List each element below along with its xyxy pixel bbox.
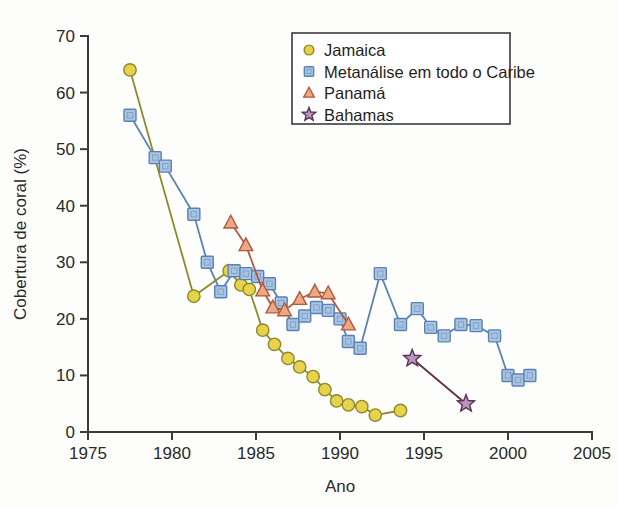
data-point-square [322,304,334,316]
data-point-circle [257,324,269,336]
data-point-circle [293,361,305,373]
data-point-circle [282,352,294,364]
data-point-circle [243,283,255,295]
x-tick-label: 1980 [153,444,191,463]
x-tick-label: 2005 [573,444,611,463]
data-point-square [188,208,200,220]
chart-legend[interactable]: JamaicaMetanálise em todo o CaribePanamá… [292,33,535,124]
x-tick-label: 1975 [69,444,107,463]
x-tick-label: 1985 [237,444,275,463]
data-point-triangle [308,284,322,297]
data-point-circle [356,400,368,412]
data-point-square [438,330,450,342]
data-point-square [124,109,136,121]
data-point-circle [369,409,381,421]
legend-label: Jamaica [324,41,386,59]
data-point-square [287,319,299,331]
data-point-square [228,265,240,277]
data-point-circle [188,290,200,302]
data-point-circle [268,338,280,350]
series-metan-lise-em-todo-o-caribe [124,109,536,386]
y-tick-label: 40 [56,197,75,216]
data-point-circle [307,370,319,382]
y-tick-label: 10 [56,366,75,385]
legend-label: Panamá [324,84,386,102]
data-point-circle [394,404,406,416]
data-point-triangle [224,215,238,228]
data-point-circle [330,395,342,407]
x-tick-label: 1990 [321,444,359,463]
y-tick-label: 20 [56,310,75,329]
data-point-square [342,335,354,347]
data-point-square [240,268,252,280]
data-point-square [512,374,524,386]
data-point-square [201,256,213,268]
x-axis-title: Ano [325,477,355,496]
series-line [130,115,530,380]
data-point-square [455,319,467,331]
y-tick-label: 70 [56,27,75,46]
data-point-circle [342,399,354,411]
y-tick-label: 50 [56,140,75,159]
data-point-circle [124,64,136,76]
data-point-square [299,310,311,322]
data-point-square [394,319,406,331]
legend-item-metan-lise-em-todo-o-caribe[interactable]: Metanálise em todo o Caribe [304,63,535,81]
data-point-square [425,321,437,333]
data-point-square [304,67,313,76]
y-tick-label: 0 [66,423,75,442]
y-tick-label: 60 [56,84,75,103]
legend-label: Metanálise em todo o Caribe [324,63,535,81]
data-point-square [310,302,322,314]
data-point-square [215,286,227,298]
y-axis-title: Cobertura de coral (%) [11,148,30,320]
data-point-square [489,330,501,342]
y-tick-label: 30 [56,253,75,272]
series-line [412,358,466,403]
x-tick-label: 2000 [489,444,527,463]
data-point-square [354,342,366,354]
data-point-triangle [293,292,307,305]
data-point-square [524,369,536,381]
chart-page: 0102030405060701975198019851990199520002… [0,0,619,506]
x-tick-label: 1995 [405,444,443,463]
series-bahamas [404,349,475,411]
data-point-triangle [239,238,253,251]
data-point-square [411,303,423,315]
data-point-star [457,395,474,411]
data-point-square [470,320,482,332]
data-point-circle [304,45,314,55]
coral-cover-line-chart: 0102030405060701975198019851990199520002… [0,0,619,506]
data-point-square [374,268,386,280]
data-point-square [159,160,171,172]
legend-label: Bahamas [324,106,394,124]
data-point-circle [319,383,331,395]
